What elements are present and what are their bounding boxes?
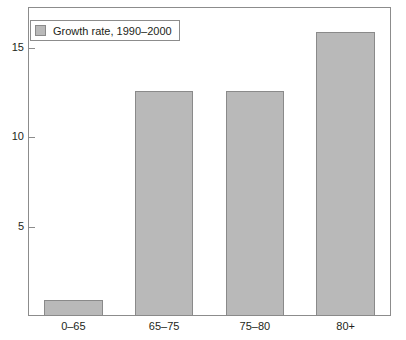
bar-2[interactable] [226,91,285,316]
bar-chart: 5 10 15 0–65 65–75 75–80 80+ Growth rate… [0,0,406,340]
y-tick-1 [28,137,35,138]
y-axis-labels: 5 10 15 [0,0,24,340]
y-tick-2 [28,48,35,49]
bar-3[interactable] [316,32,375,316]
x-tick-label-3: 80+ [300,320,391,333]
bars-layer [28,7,391,316]
bar-0[interactable] [44,300,103,316]
x-tick-label-0: 0–65 [28,320,119,333]
y-tick-label-1: 10 [0,131,24,142]
y-tick-label-0: 5 [0,221,24,232]
y-tick-0 [28,227,35,228]
x-axis-labels: 0–65 65–75 75–80 80+ [28,320,391,338]
x-tick-label-1: 65–75 [119,320,210,333]
chart-legend: Growth rate, 1990–2000 [30,20,180,41]
x-tick-label-2: 75–80 [210,320,301,333]
bar-1[interactable] [135,91,194,316]
y-tick-label-2: 15 [0,42,24,53]
legend-label-0: Growth rate, 1990–2000 [53,25,172,37]
legend-swatch-icon [35,25,46,36]
